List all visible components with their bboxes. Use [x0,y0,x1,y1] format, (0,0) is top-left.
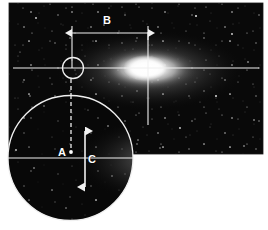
object-point-marker [69,150,73,154]
figure-canvas: B A C [0,0,268,230]
label-b: B [103,14,111,26]
label-a: A [58,146,66,158]
label-c: C [88,153,96,165]
astronomy-figure: B A C [0,0,268,230]
